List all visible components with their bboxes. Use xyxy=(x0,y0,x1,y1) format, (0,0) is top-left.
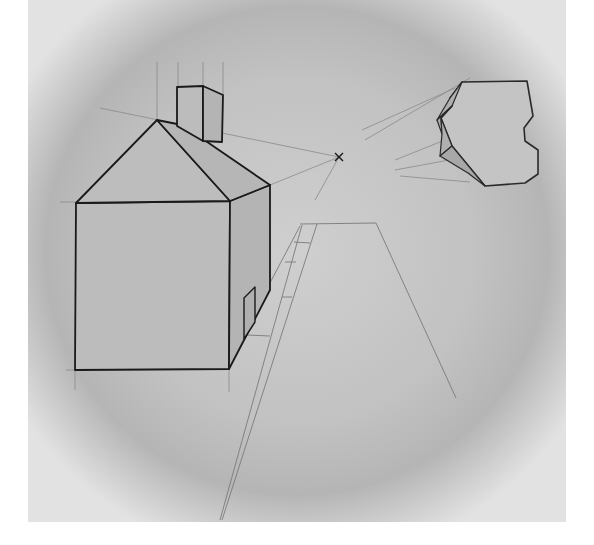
chimney-side xyxy=(203,86,223,142)
house-front-wall xyxy=(75,201,230,370)
perspective-drawing xyxy=(0,0,594,545)
